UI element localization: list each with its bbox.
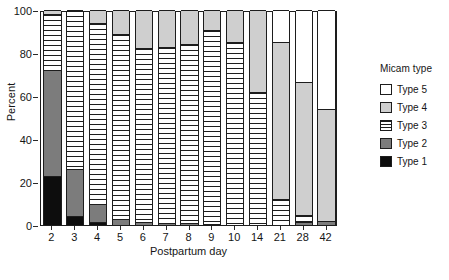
- x-tick-mark: [280, 226, 281, 230]
- bar-segment: [159, 47, 175, 223]
- x-tick-mark: [97, 226, 98, 230]
- x-tick-mark: [51, 226, 52, 230]
- x-tick-label: 3: [71, 231, 77, 243]
- y-tick-label: 40: [20, 135, 32, 145]
- legend-item: Type 5: [380, 81, 449, 98]
- bar-segment: [159, 223, 175, 225]
- legend-item-label: Type 3: [397, 120, 427, 131]
- legend-swatch-icon: [380, 120, 392, 131]
- x-tick-label: 28: [297, 231, 309, 243]
- bar-segment: [204, 224, 220, 225]
- bar-segment: [181, 10, 197, 44]
- bars-layer: [41, 12, 336, 225]
- legend-item-label: Type 1: [397, 156, 427, 167]
- bar-segment: [90, 23, 106, 204]
- bar-segment: [318, 10, 334, 109]
- bar-column: [295, 12, 313, 225]
- legend-swatch-icon: [380, 84, 392, 95]
- x-tick-label: 9: [208, 231, 214, 243]
- y-tick-mark: [33, 97, 38, 98]
- bar-segment: [318, 109, 334, 221]
- plot-area: [40, 11, 337, 226]
- bar-segment: [44, 10, 60, 14]
- x-tick-mark: [303, 226, 304, 230]
- legend-swatch-icon: [380, 102, 392, 113]
- legend-item: Type 4: [380, 99, 449, 116]
- y-tick-label: 20: [20, 178, 32, 188]
- bar-column: [66, 12, 84, 225]
- bar-column: [43, 12, 61, 225]
- x-tick-label: 6: [140, 231, 146, 243]
- legend-item-label: Type 2: [397, 138, 427, 149]
- x-tick-mark: [143, 226, 144, 230]
- bar-segment: [204, 30, 220, 224]
- bar-segment: [136, 222, 152, 225]
- x-tick-label: 14: [251, 231, 263, 243]
- legend-item: Type 1: [380, 153, 449, 170]
- x-tick-label: 4: [94, 231, 100, 243]
- bar-segment: [273, 199, 289, 225]
- x-tick-label: 2: [48, 231, 54, 243]
- x-tick-mark: [257, 226, 258, 230]
- bar-column: [135, 12, 153, 225]
- bar-segment: [296, 10, 312, 82]
- y-tick-mark: [33, 140, 38, 141]
- y-tick-label: 0: [26, 221, 32, 231]
- bar-segment: [296, 222, 312, 225]
- bar-segment: [273, 10, 289, 42]
- bar-segment: [136, 48, 152, 222]
- bar-column: [317, 12, 335, 225]
- bar-segment: [90, 204, 106, 222]
- bar-segment: [273, 42, 289, 199]
- figure-caption: [0, 272, 449, 280]
- x-tick-mark: [120, 226, 121, 230]
- legend-items: Type 5Type 4Type 3Type 2Type 1: [380, 81, 449, 170]
- bar-segment: [67, 10, 83, 169]
- y-axis-ticks: 020406080100: [0, 0, 40, 280]
- bar-column: [226, 12, 244, 225]
- legend-item: Type 3: [380, 117, 449, 134]
- bar-segment: [296, 215, 312, 221]
- legend: Micam type Type 5Type 4Type 3Type 2Type …: [380, 63, 449, 171]
- y-tick-mark: [33, 11, 38, 12]
- bar-segment: [67, 216, 83, 225]
- x-tick-label: 21: [274, 231, 286, 243]
- x-tick-mark: [234, 226, 235, 230]
- bar-segment: [318, 221, 334, 225]
- x-tick-label: 42: [319, 231, 331, 243]
- stacked-bar-chart-figure: Percent 020406080100 234567891014212842 …: [0, 0, 449, 280]
- bar-segment: [44, 176, 60, 225]
- x-tick-label: 8: [185, 231, 191, 243]
- bar-segment: [250, 10, 266, 92]
- legend-item: Type 2: [380, 135, 449, 152]
- legend-title: Micam type: [380, 63, 449, 74]
- x-tick-label: 10: [228, 231, 240, 243]
- bar-column: [89, 12, 107, 225]
- bar-column: [158, 12, 176, 225]
- bar-column: [180, 12, 198, 225]
- bar-segment: [227, 42, 243, 225]
- bar-column: [249, 12, 267, 225]
- x-tick-mark: [326, 226, 327, 230]
- bar-segment: [90, 10, 106, 23]
- x-tick-mark: [74, 226, 75, 230]
- bar-column: [203, 12, 221, 225]
- bar-segment: [204, 10, 220, 30]
- bar-segment: [181, 44, 197, 222]
- x-tick-mark: [189, 226, 190, 230]
- legend-swatch-icon: [380, 138, 392, 149]
- legend-item-label: Type 4: [397, 102, 427, 113]
- bar-segment: [113, 34, 129, 219]
- bar-segment: [159, 10, 175, 47]
- bar-segment: [44, 14, 60, 70]
- x-tick-label: 7: [163, 231, 169, 243]
- x-axis-ticks: 234567891014212842: [40, 226, 337, 246]
- y-tick-label: 100: [14, 6, 32, 16]
- x-tick-label: 5: [117, 231, 123, 243]
- y-tick-mark: [33, 226, 38, 227]
- bar-segment: [113, 10, 129, 34]
- x-tick-mark: [166, 226, 167, 230]
- bar-segment: [296, 82, 312, 215]
- bar-segment: [136, 10, 152, 48]
- bar-segment: [90, 222, 106, 225]
